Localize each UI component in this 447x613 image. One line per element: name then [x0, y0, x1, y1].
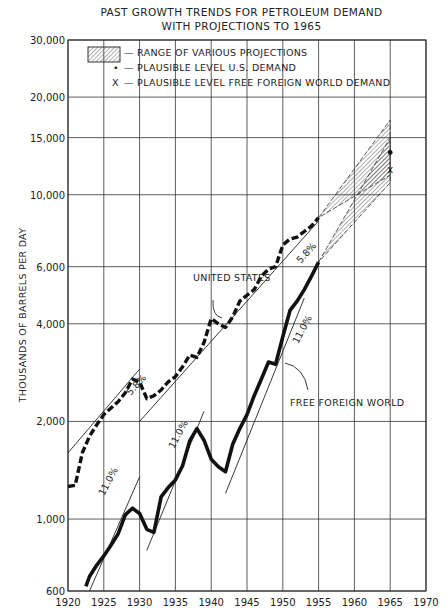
- x-tick-label: 1960: [342, 597, 367, 608]
- legend-us-label: — PLAUSIBLE LEVEL U.S. DEMAND: [124, 62, 296, 73]
- legend-ffw-label: — PLAUSIBLE LEVEL FREE FOREIGN WORLD DEM…: [124, 77, 390, 88]
- y-tick-label: 6,000: [36, 261, 65, 272]
- x-tick-label: 1925: [91, 597, 116, 608]
- x-tick-label: 1965: [377, 597, 402, 608]
- x-tick-label: 1935: [163, 597, 188, 608]
- ffw-plausible-x-icon: x: [387, 164, 393, 175]
- trend-line: [89, 477, 139, 591]
- legend-dot-icon: •: [113, 62, 119, 73]
- chart-title: PAST GROWTH TRENDS FOR PETROLEUM DEMAND: [18, 6, 447, 18]
- x-tick-label: 1945: [234, 597, 259, 608]
- x-tick-label: 1970: [413, 597, 438, 608]
- x-tick-label: 1955: [306, 597, 331, 608]
- trend-line: [226, 298, 305, 493]
- y-tick-label: 20,000: [30, 92, 65, 103]
- y-tick-label: 15,000: [30, 132, 65, 143]
- chart-subtitle: WITH PROJECTIONS TO 1965: [18, 20, 447, 32]
- annotation-free-foreign-world: FREE FOREIGN WORLD: [290, 397, 404, 408]
- ffw-demand-line: [86, 262, 319, 586]
- annotation-united-states: UNITED STATES: [193, 272, 271, 283]
- legend-hatch-swatch: [88, 47, 120, 62]
- x-tick-label: 1930: [127, 597, 152, 608]
- x-tick-label: 1950: [270, 597, 295, 608]
- y-tick-label: 600: [46, 586, 65, 597]
- y-tick-label: 2,000: [36, 416, 65, 427]
- chart-canvas: x: [0, 0, 447, 613]
- x-tick-label: 1940: [198, 597, 223, 608]
- y-tick-label: 1,000: [36, 514, 65, 525]
- label-leader-lines: [213, 300, 308, 390]
- us-demand-line: [68, 218, 319, 487]
- legend-range-label: — RANGE OF VARIOUS PROJECTIONS: [124, 47, 307, 58]
- us-plausible-dot-icon: [388, 150, 393, 155]
- y-tick-label: 10,000: [30, 189, 65, 200]
- y-tick-label: 4,000: [36, 318, 65, 329]
- y-tick-label: 30,000: [30, 35, 65, 46]
- y-axis-label: THOUSANDS OF BARRELS PER DAY: [17, 228, 28, 403]
- legend-x-icon: X: [112, 77, 119, 88]
- x-tick-label: 1920: [55, 597, 80, 608]
- grid-lines: [68, 40, 426, 591]
